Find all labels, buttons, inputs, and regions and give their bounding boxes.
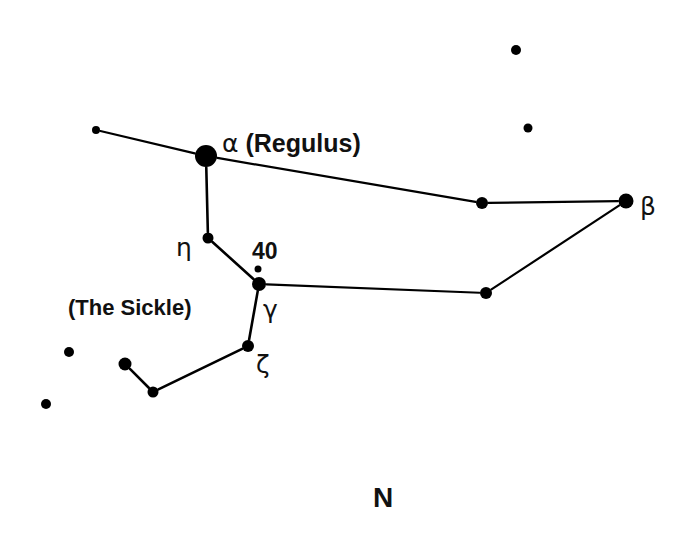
star-s7	[119, 358, 132, 371]
star-s13	[480, 287, 492, 299]
star-s10	[41, 399, 51, 409]
star-η	[203, 233, 214, 244]
star-s14	[511, 45, 521, 55]
label-n: N	[373, 482, 393, 513]
star-β	[619, 194, 634, 209]
label-γ: γ	[263, 295, 278, 324]
star-chart-figure: α (Regulus)βη40γζ(The Sickle)N	[0, 0, 691, 535]
constellation-diagram: α (Regulus)βη40γζ(The Sickle)N	[0, 0, 691, 535]
star-s15	[524, 124, 533, 133]
star-ζ	[242, 340, 254, 352]
constellation-line-s2-s3	[206, 168, 208, 233]
star-s8	[148, 387, 159, 398]
label-40: 40	[252, 238, 278, 264]
star-α-regulus	[195, 145, 217, 167]
label-η: η	[176, 233, 192, 262]
label-β: β	[640, 192, 656, 221]
label-the-sickle: (The Sickle)	[68, 295, 191, 320]
star-s11	[476, 197, 488, 209]
star-s9	[64, 347, 74, 357]
star-40	[255, 266, 262, 273]
star-s1	[92, 126, 100, 134]
label-ζ: ζ	[256, 350, 270, 379]
star-γ	[252, 277, 266, 291]
label-alpha-regulus: α (Regulus)	[222, 129, 361, 158]
chart-background	[0, 0, 691, 535]
